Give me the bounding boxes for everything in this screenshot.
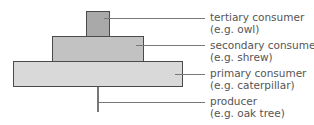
secondary-consumer-bar	[52, 36, 144, 62]
secondary-label: secondary consumer (e.g. shrew)	[210, 39, 314, 63]
secondary-leader-line	[136, 45, 205, 46]
level-example: (e.g. shrew)	[210, 51, 314, 63]
level-name: tertiary consumer	[210, 11, 304, 23]
tertiary-consumer-bar	[86, 11, 110, 37]
tertiary-label: tertiary consumer (e.g. owl)	[210, 11, 304, 35]
primary-consumer-bar	[13, 61, 183, 87]
level-example: (e.g. owl)	[210, 23, 304, 35]
level-name: producer	[210, 95, 285, 107]
level-name: secondary consumer	[210, 39, 314, 51]
level-example: (e.g. caterpillar)	[210, 79, 306, 91]
level-name: primary consumer	[210, 67, 306, 79]
primary-leader-line	[175, 74, 205, 75]
level-example: (e.g. oak tree)	[210, 107, 285, 119]
producer-bar	[97, 87, 99, 112]
producer-label: producer (e.g. oak tree)	[210, 95, 285, 119]
tertiary-leader-line	[104, 18, 205, 19]
primary-label: primary consumer (e.g. caterpillar)	[210, 67, 306, 91]
producer-leader-line	[98, 102, 205, 103]
